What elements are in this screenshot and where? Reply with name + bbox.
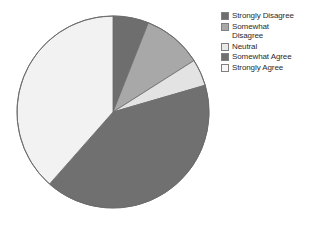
legend-item-strongly-agree: Strongly Agree xyxy=(221,63,313,73)
legend-label-strongly-agree: Strongly Agree xyxy=(232,63,283,73)
legend-label-somewhat-disagree: Somewhat Disagree xyxy=(232,22,269,41)
pie-slices-group xyxy=(17,16,209,208)
legend-swatch-icon-strongly-disagree xyxy=(221,12,229,20)
legend-label-neutral: Neutral xyxy=(232,42,257,52)
legend-item-strongly-disagree: Strongly Disagree xyxy=(221,11,313,21)
chart-plot-area xyxy=(0,0,218,226)
legend-swatch-icon-somewhat-agree xyxy=(221,53,229,61)
legend-swatch-icon-strongly-agree xyxy=(221,64,229,72)
legend-label-somewhat-agree: Somewhat Agree xyxy=(232,52,292,62)
legend-swatch-icon-somewhat-disagree xyxy=(221,23,229,31)
legend-label-strongly-disagree: Strongly Disagree xyxy=(232,11,294,21)
chart-legend: Strongly Disagree Somewhat Disagree Neut… xyxy=(221,11,313,73)
legend-swatch-icon-neutral xyxy=(221,43,229,51)
legend-item-neutral: Neutral xyxy=(221,42,313,52)
pie-chart-figure: Strongly Disagree Somewhat Disagree Neut… xyxy=(0,0,313,226)
pie-svg xyxy=(0,0,218,226)
legend-item-somewhat-agree: Somewhat Agree xyxy=(221,52,313,62)
legend-item-somewhat-disagree: Somewhat Disagree xyxy=(221,22,313,41)
